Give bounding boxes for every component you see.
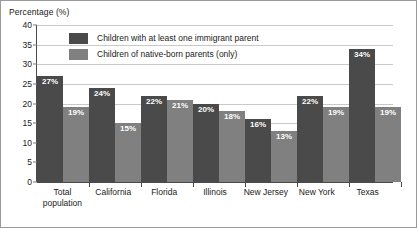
bar-group: 34%19% [349, 25, 401, 182]
bar[interactable]: 27% [37, 76, 63, 182]
chart-legend: Children with at least one immigrant par… [69, 30, 259, 62]
legend-item[interactable]: Children with at least one immigrant par… [69, 30, 259, 46]
bar-value-label: 13% [271, 133, 297, 141]
y-tick-label: 20 [23, 99, 32, 108]
x-axis-category-label: Texas [342, 187, 393, 209]
bar-value-label: 19% [375, 109, 401, 117]
bar-value-label: 27% [37, 78, 63, 86]
bar[interactable]: 13% [271, 131, 297, 182]
y-tick-label: 40 [23, 21, 32, 30]
x-axis-baseline [37, 182, 393, 183]
y-tick-label: 0 [27, 178, 32, 187]
bar-value-label: 16% [245, 121, 271, 129]
bar[interactable]: 21% [167, 100, 193, 182]
chart-container: Percentage (%) 0510152025303540 27%19%24… [0, 0, 417, 228]
legend-label: Children of native-born parents (only) [97, 50, 237, 59]
legend-item[interactable]: Children of native-born parents (only) [69, 46, 259, 62]
bar-value-label: 21% [167, 102, 193, 110]
y-tick-label: 5 [27, 158, 32, 167]
legend-swatch-icon [69, 49, 88, 60]
x-axis-category-label: New York [291, 187, 342, 209]
bar[interactable]: 16% [245, 119, 271, 182]
y-tick-label: 15 [23, 119, 32, 128]
legend-swatch-icon [69, 33, 88, 44]
x-axis-category-label: Florida [139, 187, 190, 209]
y-axis-title: Percentage (%) [9, 7, 69, 17]
bar[interactable]: 34% [349, 49, 375, 182]
bar[interactable]: 18% [219, 111, 245, 182]
x-axis-category-label: New Jersey [240, 187, 291, 209]
bar-group: 22%19% [297, 25, 349, 182]
bar-value-label: 22% [141, 98, 167, 106]
bar-value-label: 19% [323, 109, 349, 117]
y-tick-label: 30 [23, 60, 32, 69]
bar[interactable]: 19% [63, 107, 89, 182]
bar-value-label: 22% [297, 98, 323, 106]
x-axis-labels: Total populationCaliforniaFloridaIllinoi… [37, 187, 393, 209]
x-axis-category-label: California [88, 187, 139, 209]
y-tick-label: 25 [23, 80, 32, 89]
bar[interactable]: 22% [141, 96, 167, 182]
bar[interactable]: 22% [297, 96, 323, 182]
x-tick-mark [401, 182, 402, 187]
bar[interactable]: 20% [193, 104, 219, 183]
bar-value-label: 15% [115, 125, 141, 133]
bar[interactable]: 24% [89, 88, 115, 182]
bar[interactable]: 19% [323, 107, 349, 182]
x-axis-category-label: Total population [37, 187, 88, 209]
legend-label: Children with at least one immigrant par… [97, 34, 259, 43]
y-tick-label: 10 [23, 139, 32, 148]
bar-value-label: 24% [89, 90, 115, 98]
bar-value-label: 20% [193, 106, 219, 114]
bar-value-label: 34% [349, 51, 375, 59]
bar[interactable]: 15% [115, 123, 141, 182]
y-tick-label: 35 [23, 40, 32, 49]
bar-value-label: 19% [63, 109, 89, 117]
bar[interactable]: 19% [375, 107, 401, 182]
x-axis-category-label: Illinois [190, 187, 241, 209]
bar-value-label: 18% [219, 113, 245, 121]
